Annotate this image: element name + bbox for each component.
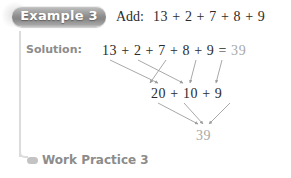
solution-label: Solution: [26, 43, 82, 56]
step-1-answer: 39 [231, 43, 246, 58]
oval-bullet-icon [27, 157, 38, 164]
example-badge-label: Example 3 [12, 9, 106, 23]
problem-statement: Add:13 + 2 + 7 + 8 + 9 [116, 9, 265, 25]
add-instruction-label: Add: [116, 9, 144, 24]
solution-step-3-answer: 39 [196, 128, 211, 144]
example-badge: Example 3 [12, 6, 106, 27]
left-vertical-rule [19, 31, 21, 157]
example-card [1, 1, 289, 176]
work-practice-label: Work Practice 3 [42, 153, 149, 167]
solution-step-1: 13 + 2 + 7 + 8 + 9 = 39 [102, 43, 246, 59]
solution-step-2: 20 + 10 + 9 [151, 86, 222, 102]
step-1-expression: 13 + 2 + 7 + 8 + 9 = [102, 43, 227, 58]
example-figure: Example 3 Add:13 + 2 + 7 + 8 + 9 Solutio… [0, 0, 291, 178]
add-expression: 13 + 2 + 7 + 8 + 9 [153, 9, 265, 24]
